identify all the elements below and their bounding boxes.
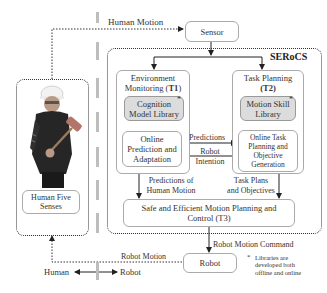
online-prediction-b: Prediction and xyxy=(127,144,176,154)
edge-label-robot-motion: Robot Motion xyxy=(121,252,166,262)
edge-label-task-plans: Task Plans and Objectives xyxy=(223,176,279,195)
asterisk-marker: * xyxy=(289,95,293,105)
edge-label-robot-intention: Robot Intention xyxy=(191,147,229,166)
online-task-d: Generation xyxy=(248,160,287,169)
task-plans-b: and Objectives xyxy=(223,186,279,196)
footnote-b: developed both xyxy=(255,261,301,269)
worker-figure-icon xyxy=(22,84,84,188)
motion-planning-control-module: Safe and Efficient Motion Planning and C… xyxy=(123,199,295,227)
motion-skill-b: Library xyxy=(246,109,289,119)
separator xyxy=(96,180,99,200)
human-senses-b: Senses xyxy=(31,202,71,212)
cognition-model-library: Cognition Model Library xyxy=(124,96,184,121)
t1-title-b: Monitoring ( xyxy=(125,83,169,93)
t1-title: Environment xyxy=(125,73,181,83)
robot-intention-b: Intention xyxy=(191,157,229,167)
edge-label-predictions: Predictions xyxy=(189,133,225,143)
footnote: * Libraries are developed both offline a… xyxy=(247,253,301,276)
separator xyxy=(96,78,99,98)
online-prediction-a: Online xyxy=(127,134,176,144)
t2-title: Task Planning xyxy=(244,73,292,83)
edge-label-predictions-human: Predictions of Human Motion xyxy=(140,176,202,195)
online-task-c: Objective xyxy=(248,151,287,160)
separator xyxy=(96,262,99,280)
motion-skill-a: Motion Skill xyxy=(246,99,289,109)
sensor-node: Sensor xyxy=(185,21,239,42)
online-prediction-node: Online Prediction and Adaptation xyxy=(122,131,182,167)
task-plans-a: Task Plans xyxy=(223,176,279,186)
online-task-b: Planning and xyxy=(248,142,287,151)
cognition-label-a: Cognition xyxy=(129,99,179,109)
legend-human: Human xyxy=(44,268,69,278)
serocs-title: SERoCS xyxy=(270,52,307,62)
separator xyxy=(96,213,99,233)
t1-close: ) xyxy=(178,83,181,93)
t2-code: (T2) xyxy=(244,83,292,93)
separator xyxy=(96,112,99,132)
predictions-human-b: Human Motion xyxy=(140,186,202,196)
footnote-c: offline and online xyxy=(255,269,301,277)
robot-intention-a: Robot xyxy=(191,147,229,157)
robot-node: Robot xyxy=(183,253,237,273)
online-prediction-c: Adaptation xyxy=(127,154,176,164)
t1-code: T1 xyxy=(168,83,178,93)
edge-label-human-motion: Human Motion xyxy=(108,18,163,28)
t3-line1: Safe and Efficient Motion Planning and xyxy=(141,203,276,213)
online-task-planning-node: Online Task Planning and Objective Gener… xyxy=(238,130,298,172)
human-five-senses-node: Human Five Senses xyxy=(22,190,80,214)
sensor-label: Sensor xyxy=(200,27,223,37)
cognition-label-b: Model Library xyxy=(129,109,179,119)
predictions-human-a: Predictions of xyxy=(140,176,202,186)
separator xyxy=(96,42,99,60)
edge-label-robot-motion-command: Robot Motion Command xyxy=(213,240,293,250)
footnote-asterisk: * xyxy=(247,253,250,260)
worker-photo xyxy=(22,84,84,188)
asterisk-marker: * xyxy=(177,95,181,105)
human-senses-a: Human Five xyxy=(31,193,71,203)
separator xyxy=(96,12,99,23)
legend-robot: Robot xyxy=(120,268,141,278)
online-task-a: Online Task xyxy=(248,133,287,142)
footnote-a: Libraries are xyxy=(255,254,301,262)
separator xyxy=(96,147,99,167)
motion-skill-library: Motion Skill Library xyxy=(240,96,296,121)
robot-label: Robot xyxy=(200,258,221,268)
t3-line2: Control (T3) xyxy=(141,213,276,223)
